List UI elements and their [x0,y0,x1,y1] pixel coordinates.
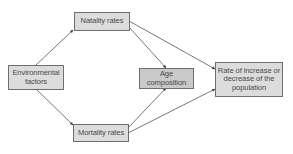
edge-mortality-to-rate [128,89,215,133]
node-mortality-label: Mortality rates [78,129,124,137]
node-age-composition: Age composition [139,68,194,89]
edge-environmental-to-mortality [36,89,73,125]
node-natality-rates: Natality rates [74,12,130,31]
diagram-canvas: Environmental factors Natality rates Mor… [0,0,293,154]
edge-environmental-to-natality [36,30,73,65]
node-natality-label: Natality rates [81,17,124,25]
node-environmental-factors: Environmental factors [8,65,64,90]
edge-natality-to-age [129,27,166,68]
edge-mortality-to-age [128,88,166,128]
node-rate-of-increase: Rate of increase or decrease of the popu… [215,62,283,97]
node-environmental-line2: factors [12,78,59,86]
node-rate-line3: population [218,84,280,92]
node-mortality-rates: Mortality rates [73,124,129,142]
node-age-line2: composition [147,79,186,87]
edge-natality-to-rate [129,21,215,69]
